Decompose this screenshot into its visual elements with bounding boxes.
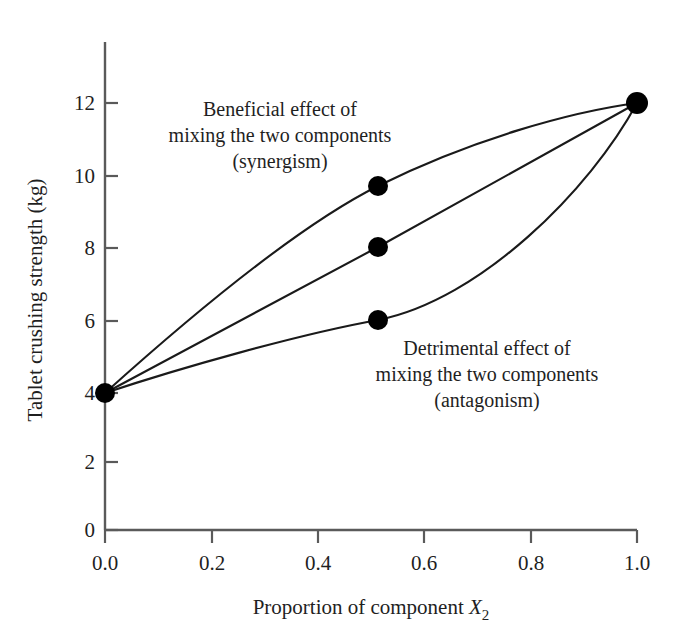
y-ticks-group xyxy=(105,103,118,530)
x-tick-label-0.0: 0.0 xyxy=(92,551,118,575)
x-tick-label-0.4: 0.4 xyxy=(305,551,332,575)
synergism-annotation: Beneficial effect of mixing the two comp… xyxy=(169,98,392,173)
y-tick-label-8: 8 xyxy=(85,236,96,260)
axes-group xyxy=(105,42,637,530)
x-tick-labels-group: 0.0 0.2 0.4 0.6 0.8 1.0 xyxy=(92,551,650,575)
x-tick-label-0.6: 0.6 xyxy=(411,551,437,575)
mixture-response-chart: 12 10 8 6 4 2 0 0.0 0.2 0.4 0.6 0.8 1.0 xyxy=(0,0,685,636)
x-tick-label-0.8: 0.8 xyxy=(518,551,544,575)
y-axis-title: Tablet crushing strength (kg) xyxy=(23,179,47,422)
data-point-origin[interactable] xyxy=(95,383,115,403)
y-tick-label-6: 6 xyxy=(85,309,96,333)
synergism-annotation-line1: Beneficial effect of xyxy=(203,98,357,120)
antagonism-annotation: Detrimental effect of mixing the two com… xyxy=(376,337,599,412)
x-axis-title-variable: X xyxy=(468,595,483,619)
x-axis-title: Proportion of component X2 xyxy=(253,595,490,623)
y-tick-label-10: 10 xyxy=(74,164,95,188)
synergism-annotation-line3: (synergism) xyxy=(232,150,327,173)
y-tick-labels-group: 12 10 8 6 4 2 0 xyxy=(74,91,96,542)
data-point-antagonism-mid[interactable] xyxy=(368,310,388,330)
x-tick-label-1.0: 1.0 xyxy=(624,551,650,575)
chart-page: 12 10 8 6 4 2 0 0.0 0.2 0.4 0.6 0.8 1.0 xyxy=(0,0,685,636)
antagonism-annotation-line2: mixing the two components xyxy=(376,363,599,386)
antagonism-annotation-line1: Detrimental effect of xyxy=(403,337,571,359)
x-ticks-group xyxy=(105,530,637,543)
x-axis-title-main: Proportion of component xyxy=(253,595,469,619)
x-axis-title-subscript: 2 xyxy=(482,607,490,623)
data-point-endpoint[interactable] xyxy=(626,92,648,114)
synergism-annotation-line2: mixing the two components xyxy=(169,124,392,147)
data-point-additive-mid[interactable] xyxy=(368,237,388,257)
y-tick-label-0: 0 xyxy=(85,518,96,542)
y-tick-label-4: 4 xyxy=(85,381,96,405)
y-tick-label-12: 12 xyxy=(74,91,95,115)
y-tick-label-2: 2 xyxy=(85,450,96,474)
antagonism-annotation-line3: (antagonism) xyxy=(434,389,540,412)
data-point-synergism-mid[interactable] xyxy=(368,176,388,196)
x-tick-label-0.2: 0.2 xyxy=(199,551,225,575)
